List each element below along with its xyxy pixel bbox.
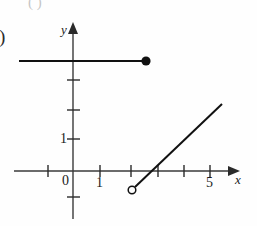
y-axis-label: y xyxy=(61,23,67,36)
origin-label: 0 xyxy=(62,174,69,188)
closed-endpoint-dot xyxy=(141,56,150,65)
y-axis-arrowhead xyxy=(68,22,78,34)
graph-svg xyxy=(0,0,257,226)
x-tick-label-1: 1 xyxy=(96,176,103,190)
y-tick-label-1: 1 xyxy=(60,132,67,146)
figure-container: ( ) ) y xyxy=(0,0,257,226)
x-axis-label: x xyxy=(235,173,241,186)
open-endpoint-circle xyxy=(128,186,136,194)
x-tick-label-5: 5 xyxy=(206,176,213,190)
